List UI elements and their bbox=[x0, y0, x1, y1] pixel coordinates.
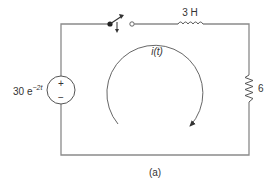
loop-current: i(t) bbox=[107, 45, 203, 126]
resistor-label: 6 bbox=[258, 83, 264, 94]
switch bbox=[107, 14, 134, 33]
inductor: 3 H bbox=[178, 7, 203, 24]
voltage-source: + − 30 e−2t bbox=[13, 76, 75, 104]
wire-left bbox=[61, 24, 249, 155]
circuit-diagram: 3 H 6 + − 30 e−2t i(t) (a) bbox=[0, 0, 276, 183]
current-label: i(t) bbox=[151, 46, 163, 57]
figure-caption: (a) bbox=[149, 167, 161, 178]
resistor: 6 bbox=[245, 75, 264, 102]
inductor-label: 3 H bbox=[182, 7, 198, 18]
minus-sign: − bbox=[58, 92, 64, 103]
clockwise-arrow-icon bbox=[107, 45, 203, 126]
wire-top-right bbox=[203, 24, 249, 75]
plus-sign: + bbox=[58, 78, 64, 89]
source-label: 30 e−2t bbox=[13, 84, 43, 97]
switch-arrow-icon bbox=[119, 14, 124, 19]
